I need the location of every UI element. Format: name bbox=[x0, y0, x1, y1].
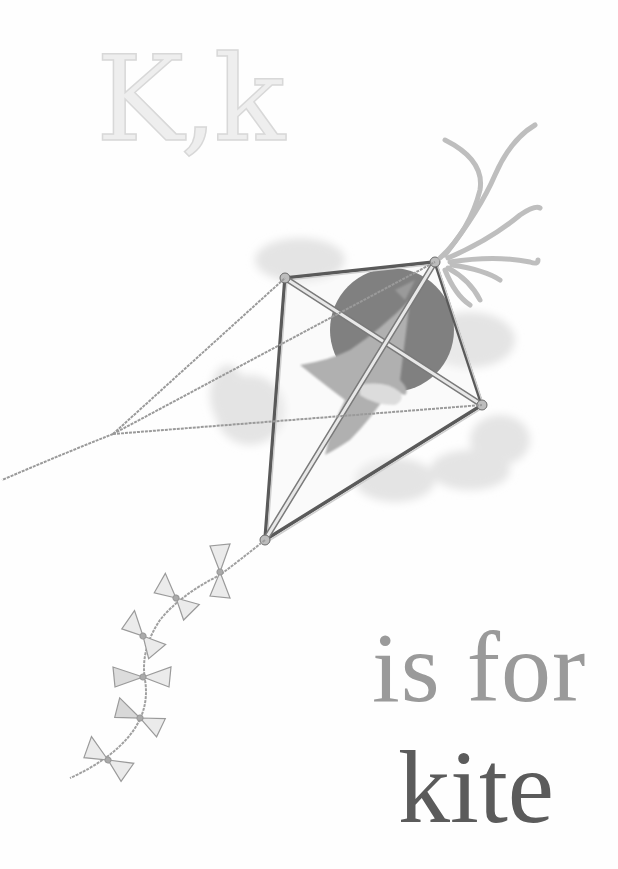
caption-is-for: is for bbox=[372, 618, 586, 718]
bow-icon bbox=[113, 667, 171, 687]
ribbon-streamers-icon bbox=[440, 125, 540, 305]
alphabet-page: K,k is for kite bbox=[0, 0, 618, 869]
letter-heading: K,k bbox=[96, 40, 281, 158]
caption-word: kite bbox=[398, 735, 554, 839]
bow-icon bbox=[210, 544, 230, 598]
bow-icon bbox=[150, 573, 201, 621]
bow-icon bbox=[111, 698, 166, 738]
tail-bows bbox=[79, 544, 230, 782]
bow-icon bbox=[118, 611, 167, 660]
tail-string bbox=[70, 540, 265, 778]
bow-icon bbox=[79, 737, 134, 783]
